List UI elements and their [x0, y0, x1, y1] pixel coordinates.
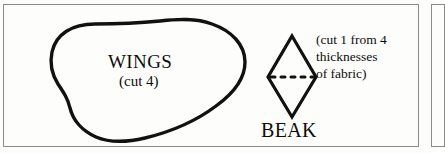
beak-note-line-1: (cut 1 from 4 [316, 31, 414, 48]
beak-cut-instruction: (cut 1 from 4 thicknesses of fabric) [316, 31, 414, 82]
beak-note-line-3: of fabric) [316, 65, 414, 82]
wings-piece-label: WINGS [108, 52, 172, 71]
beak-piece-label: BEAK [261, 120, 317, 140]
pattern-panel-adjacent [431, 4, 445, 147]
beak-note-line-2: thicknesses [316, 48, 414, 65]
wings-cut-instruction: (cut 4) [119, 74, 159, 89]
